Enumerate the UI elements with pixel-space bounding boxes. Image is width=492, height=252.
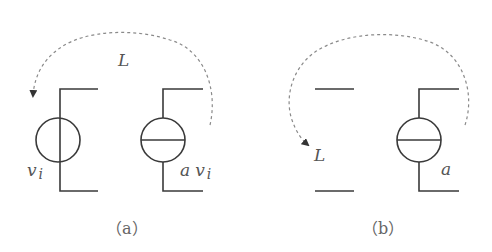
caption-a: （a） xyxy=(106,219,148,238)
panel-b: L a （b） xyxy=(289,35,469,238)
label-a: a xyxy=(441,159,451,179)
loop-label-a: L xyxy=(117,50,129,70)
panel-a: L vi avi （a） xyxy=(27,32,212,238)
label-vi: vi xyxy=(27,160,43,182)
current-source-avi xyxy=(141,89,203,191)
voltage-source-vi xyxy=(36,89,98,191)
caption-b: （b） xyxy=(362,219,404,238)
diagram-canvas: L vi avi （a） L xyxy=(0,0,492,252)
label-avi: avi xyxy=(180,160,211,182)
loop-label-b: L xyxy=(313,145,325,165)
